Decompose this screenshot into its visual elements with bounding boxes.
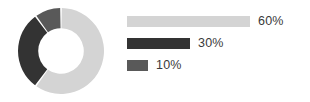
donut-chart-figure: 60% 30% 10% [0, 0, 310, 102]
donut-slice [18, 17, 47, 86]
legend-swatch-10 [127, 60, 148, 71]
legend-swatch-30 [127, 38, 190, 49]
legend-item: 30% [127, 38, 307, 49]
legend-swatch-60 [127, 16, 250, 27]
donut-chart-graphic [18, 8, 104, 94]
chart-legend: 60% 30% 10% [127, 16, 307, 82]
legend-label-10: 10% [156, 60, 182, 71]
legend-label-60: 60% [258, 16, 284, 27]
legend-label-30: 30% [198, 38, 224, 49]
legend-item: 60% [127, 16, 307, 27]
legend-item: 10% [127, 60, 307, 71]
